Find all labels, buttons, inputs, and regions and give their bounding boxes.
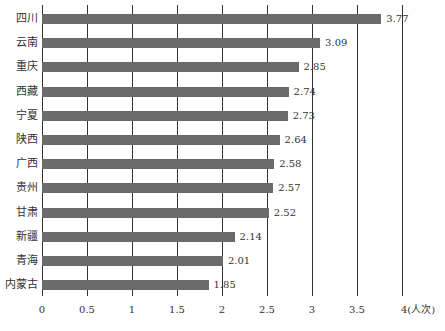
value-label: 2.57 [278,182,300,194]
category-label: 广西 [0,157,38,171]
category-label: 西藏 [0,85,38,99]
x-tick-label: 4(人次) [401,304,435,316]
bar [42,111,288,121]
value-label: 1.85 [214,279,236,291]
bar [42,38,320,48]
category-label: 重庆 [0,60,38,74]
gridline [312,5,313,296]
gridline [267,5,268,296]
bar-chart: 四川3.77云南3.09重庆2.85西藏2.74宁夏2.73陕西2.64广西2.… [0,0,445,331]
category-label: 新疆 [0,230,38,244]
value-label: 2.58 [279,158,301,170]
gridline [402,5,403,296]
gridline [87,5,88,296]
bar [42,135,280,145]
value-label: 2.85 [304,61,326,73]
category-label: 陕西 [0,133,38,147]
bar [42,159,274,169]
gridline [222,5,223,296]
x-tick-label: 0.5 [79,304,95,316]
x-tick-label: 2 [219,304,225,316]
bar [42,183,273,193]
category-label: 甘肃 [0,206,38,220]
category-label: 宁夏 [0,109,38,123]
x-tick-label: 1.5 [169,304,185,316]
category-label: 四川 [0,12,38,26]
bar [42,232,235,242]
x-tick-label: 3.5 [349,304,365,316]
bar [42,208,269,218]
gridline [357,5,358,296]
value-label: 2.74 [294,86,316,98]
value-label: 3.77 [386,13,408,25]
category-label: 青海 [0,254,38,268]
value-label: 2.52 [274,207,296,219]
value-label: 3.09 [325,37,347,49]
gridline [42,5,43,296]
x-tick-label: 1 [129,304,135,316]
bar [42,87,289,97]
bar [42,14,381,24]
x-tick-label: 3 [309,304,315,316]
value-label: 2.14 [240,231,262,243]
bar [42,280,209,290]
gridline [132,5,133,296]
value-label: 2.64 [285,134,307,146]
value-label: 2.01 [228,255,250,267]
x-tick-label: 2.5 [259,304,275,316]
value-label: 2.73 [293,110,315,122]
x-tick-label: 0 [39,304,45,316]
category-label: 云南 [0,36,38,50]
bar [42,62,299,72]
bar [42,256,223,266]
category-label: 内蒙古 [0,278,38,292]
category-label: 贵州 [0,181,38,195]
gridline [177,5,178,296]
